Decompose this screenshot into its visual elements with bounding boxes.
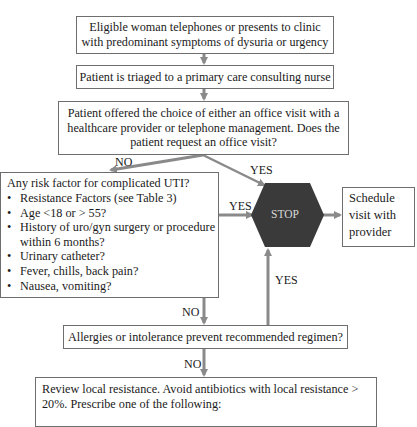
- schedule-line-3: provider: [349, 224, 414, 241]
- risk-title: Any risk factor for complicated UTI?: [7, 176, 218, 191]
- start-box: Eligible woman telephones or presents to…: [76, 16, 334, 54]
- stop-label: STOP: [271, 208, 299, 220]
- no-label-risk: NO: [182, 305, 199, 320]
- risk-item: Urinary catheter?: [7, 249, 218, 264]
- allergies-text: Allergies or intolerance prevent recomme…: [68, 330, 343, 344]
- review-resistance-box: Review local resistance. Avoid antibioti…: [35, 377, 377, 427]
- risk-list: Resistance Factors (see Table 3) Age <18…: [7, 191, 218, 293]
- risk-item: History of uro/gyn surgery or procedure …: [7, 220, 218, 249]
- yes-label-allergies: YES: [275, 273, 298, 288]
- schedule-visit-box: Schedule visit with provider: [342, 187, 415, 247]
- no-label-allergies: NO: [184, 357, 201, 372]
- risk-item: Resistance Factors (see Table 3): [7, 191, 218, 206]
- choice-line-3: patient request an office visit?: [59, 135, 348, 150]
- risk-item: Fever, chills, back pain?: [7, 264, 218, 279]
- yes-label-risk: YES: [229, 199, 252, 214]
- risk-item: Age <18 or > 55?: [7, 206, 218, 221]
- no-label-choice: NO: [115, 155, 132, 170]
- schedule-line-2: visit with: [349, 207, 414, 224]
- risk-factor-box: Any risk factor for complicated UTI? Res…: [0, 172, 219, 298]
- triage-text: Patient is triaged to a primary care con…: [79, 70, 330, 84]
- review-line-2: 20%. Prescribe one of the following:: [42, 397, 376, 412]
- schedule-line-1: Schedule: [349, 190, 414, 207]
- yes-label-choice: YES: [250, 163, 273, 178]
- choice-box: Patient offered the choice of either an …: [58, 101, 349, 155]
- start-line-1: Eligible woman telephones or presents to…: [77, 20, 333, 35]
- choice-line-2: healthcare provider or telephone managem…: [59, 121, 348, 136]
- risk-item: Nausea, vomiting?: [7, 279, 218, 294]
- review-line-1: Review local resistance. Avoid antibioti…: [42, 382, 376, 397]
- allergies-box: Allergies or intolerance prevent recomme…: [63, 325, 348, 349]
- triage-box: Patient is triaged to a primary care con…: [76, 65, 334, 89]
- choice-line-1: Patient offered the choice of either an …: [59, 106, 348, 121]
- start-line-2: with predominant symptoms of dysuria or …: [77, 35, 333, 50]
